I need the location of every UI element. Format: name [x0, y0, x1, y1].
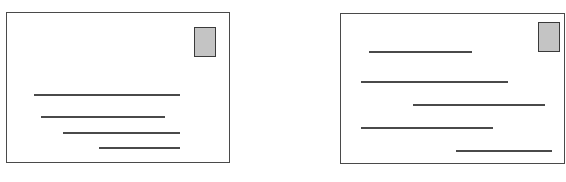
stamp-icon	[194, 27, 216, 57]
address-line	[63, 132, 180, 134]
address-line	[413, 104, 545, 106]
address-line	[41, 116, 165, 118]
address-line	[99, 147, 180, 149]
stamp-icon	[538, 22, 560, 52]
address-line	[34, 94, 180, 96]
address-line	[361, 81, 508, 83]
address-line	[456, 150, 552, 152]
right-card	[340, 13, 565, 164]
address-line	[361, 127, 493, 129]
address-line	[369, 51, 472, 53]
